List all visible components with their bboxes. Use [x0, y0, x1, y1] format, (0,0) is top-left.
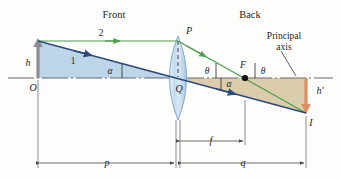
label-image-height: h'	[316, 85, 324, 96]
label-distance-f: f	[210, 135, 214, 146]
label-front: Front	[103, 9, 126, 20]
optics-ray-diagram: Front Back 2 1 h O P Q F I h' α α θ θ Pr…	[0, 0, 341, 179]
diagram-canvas: Front Back 2 1 h O P Q F I h' α α θ θ Pr…	[0, 0, 341, 179]
label-distance-p: p	[104, 157, 110, 168]
label-principal-axis-line2: axis	[276, 42, 292, 52]
label-point-p: P	[185, 25, 192, 36]
label-point-q: Q	[175, 83, 183, 94]
label-theta-left: θ	[205, 66, 210, 76]
principal-axis-leader-line	[281, 51, 296, 76]
label-distance-q: q	[241, 157, 246, 168]
label-principal-axis-line1: Principal	[267, 31, 302, 41]
focal-point-dot	[242, 75, 248, 81]
label-ray-1: 1	[71, 56, 76, 66]
label-back: Back	[239, 9, 261, 20]
label-ray-2: 2	[99, 28, 104, 38]
ray-2-refracted-arrowhead	[186, 46, 206, 57]
label-point-o: O	[29, 82, 36, 93]
label-point-i: I	[308, 117, 313, 128]
label-theta-right: θ	[261, 66, 266, 76]
label-point-f: F	[239, 59, 247, 70]
label-point-h: h	[26, 57, 31, 68]
